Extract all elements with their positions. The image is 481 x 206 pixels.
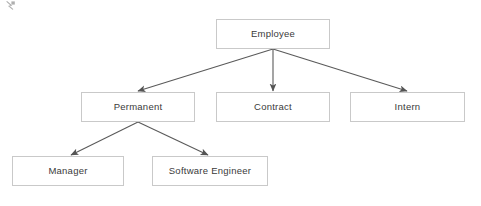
diagram-canvas: EmployeePermanentContractInternManagerSo… xyxy=(0,0,481,206)
node-manager[interactable]: Manager xyxy=(12,156,124,186)
node-contract[interactable]: Contract xyxy=(216,92,330,122)
node-label-intern: Intern xyxy=(395,102,421,112)
node-label-permanent: Permanent xyxy=(114,102,163,112)
node-label-employee: Employee xyxy=(251,29,295,39)
scan-artifact-mark xyxy=(6,1,16,10)
edge-permanent-to-manager xyxy=(71,122,138,155)
node-label-contract: Contract xyxy=(254,102,292,112)
edge-permanent-to-software-engineer xyxy=(138,122,208,155)
node-intern[interactable]: Intern xyxy=(350,92,465,122)
node-label-manager: Manager xyxy=(48,166,87,176)
edge-employee-to-permanent xyxy=(138,49,273,91)
node-software-engineer[interactable]: Software Engineer xyxy=(152,156,268,186)
node-employee[interactable]: Employee xyxy=(216,19,330,49)
node-permanent[interactable]: Permanent xyxy=(81,92,195,122)
node-label-software-engineer: Software Engineer xyxy=(169,166,251,176)
edge-employee-to-intern xyxy=(273,49,407,91)
